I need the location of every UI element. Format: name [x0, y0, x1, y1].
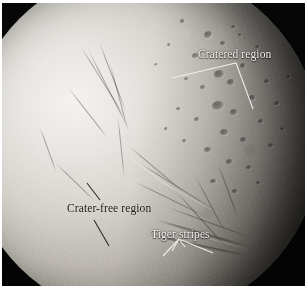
crater [194, 117, 200, 122]
crater [264, 79, 270, 84]
crater [240, 63, 246, 69]
fracture-groove [79, 45, 125, 117]
fracture-groove [196, 177, 227, 234]
crater [231, 25, 236, 29]
crater [286, 75, 291, 79]
crater [227, 79, 235, 86]
crater [258, 119, 264, 124]
crater [164, 127, 168, 131]
crater [214, 70, 225, 79]
crater [184, 77, 189, 81]
crater [232, 189, 238, 194]
fracture-groove [40, 127, 57, 172]
crater [200, 85, 206, 90]
crater [246, 165, 252, 170]
crater [220, 129, 229, 136]
crater [212, 101, 225, 111]
photograph-plate: Cratered region Crater-free region Tiger… [2, 3, 305, 286]
crater [255, 45, 260, 49]
crater [210, 179, 217, 184]
crater [154, 63, 158, 66]
crater [268, 143, 274, 148]
moon-disc-wrapper [2, 3, 305, 286]
fracture-ridge [146, 173, 220, 215]
crater [280, 127, 285, 131]
crater [274, 101, 280, 106]
crater [240, 137, 247, 143]
crater [182, 139, 187, 143]
annotated-moon-figure: Cratered region Crater-free region Tiger… [0, 0, 308, 290]
crater [204, 147, 212, 153]
crater [180, 19, 185, 24]
fracture-groove [68, 87, 110, 140]
fracture-groove [56, 163, 96, 201]
crater [256, 181, 261, 185]
crater [176, 107, 181, 111]
crater [167, 43, 171, 47]
fracture-ridge [124, 153, 178, 193]
crater [226, 159, 233, 165]
crater [192, 53, 199, 59]
tiger-stripe-groove [156, 219, 249, 247]
crater [220, 41, 226, 46]
fracture-groove [118, 117, 125, 177]
moon-disc [2, 3, 305, 286]
crater [204, 31, 213, 39]
crater [230, 109, 238, 116]
crater [238, 33, 242, 37]
crater [249, 95, 256, 101]
